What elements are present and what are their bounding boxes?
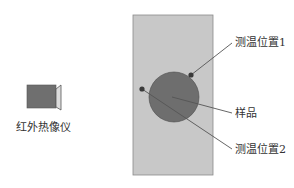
measurement-point-2 <box>139 86 144 91</box>
sample-circle <box>149 72 199 122</box>
camera-lens <box>56 85 61 110</box>
camera-label: 红外热像仪 <box>16 122 71 134</box>
diagram-canvas <box>0 0 294 188</box>
camera-body <box>27 85 56 108</box>
point-2-label: 测温位置2 <box>235 144 286 156</box>
point-1-label: 测温位置1 <box>235 37 286 49</box>
sample-label: 样品 <box>235 108 257 120</box>
measurement-point-1 <box>188 72 193 77</box>
